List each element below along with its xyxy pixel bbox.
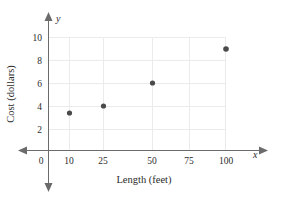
x-axis-left-arrow-icon <box>18 147 27 155</box>
y-axis-up-arrow-icon <box>45 12 53 21</box>
y-tick-label-10: 10 <box>33 33 43 43</box>
y-tick-labels: 2 4 6 8 10 <box>33 33 43 135</box>
y-tick-label-8: 8 <box>37 56 42 66</box>
data-points <box>67 46 229 115</box>
data-point <box>101 103 106 108</box>
x-tick-label-10: 10 <box>64 156 74 166</box>
x-axis-title: Length (feet) <box>116 174 172 186</box>
data-point <box>67 110 72 115</box>
y-tick-label-2: 2 <box>37 125 42 135</box>
x-tick-labels: 10 25 50 75 100 <box>64 156 233 166</box>
vertical-gridlines <box>70 37 226 150</box>
data-point <box>150 80 155 85</box>
y-axis-title: Cost (dollars) <box>5 65 17 123</box>
chart-canvas: x y 0 10 25 50 75 100 2 4 6 8 10 Length <box>0 0 284 201</box>
x-tick-label-100: 100 <box>219 156 234 166</box>
x-axis <box>18 147 268 155</box>
y-axis-down-arrow-icon <box>45 183 53 192</box>
horizontal-gridlines <box>48 38 226 130</box>
y-axis-symbol: y <box>55 13 61 24</box>
scatter-plot-figure: x y 0 10 25 50 75 100 2 4 6 8 10 Length <box>0 0 284 201</box>
data-point <box>223 46 229 52</box>
x-tick-label-50: 50 <box>147 156 157 166</box>
x-axis-symbol: x <box>252 149 258 160</box>
x-axis-right-arrow-icon <box>259 147 268 155</box>
y-axis <box>45 12 53 192</box>
y-tick-label-6: 6 <box>37 79 42 89</box>
origin-label: 0 <box>39 156 44 166</box>
x-tick-label-25: 25 <box>98 156 108 166</box>
x-tick-label-75: 75 <box>184 156 194 166</box>
y-tick-label-4: 4 <box>37 102 42 112</box>
